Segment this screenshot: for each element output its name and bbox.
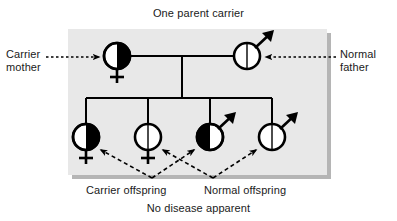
normal-father-label-line2: father	[340, 61, 376, 74]
normal-offspring-label: Normal offspring	[204, 184, 286, 197]
diagram-title: One parent carrier	[0, 7, 397, 20]
normal-father-label: Normal father	[340, 48, 376, 74]
carrier-mother-label: Carrier mother	[6, 48, 41, 74]
carrier-offspring-label: Carrier offspring	[86, 184, 166, 197]
pedigree-diagram: One parent carrier Carrier mother Normal…	[0, 0, 397, 221]
no-disease-apparent-label: No disease apparent	[0, 202, 397, 215]
carrier-mother-label-line2: mother	[6, 61, 41, 74]
normal-father-label-line1: Normal	[340, 48, 376, 61]
pedigree-canvas	[0, 0, 397, 221]
carrier-mother-label-line1: Carrier	[6, 48, 41, 61]
